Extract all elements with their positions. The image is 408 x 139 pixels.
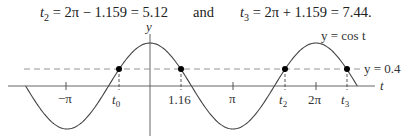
y-axis-label: y [144, 19, 152, 34]
point-t3 [344, 66, 350, 72]
line-label: y = 0.4 [364, 61, 401, 76]
t-axis-label: t [380, 78, 384, 93]
point-t2 [282, 66, 288, 72]
cosine-chart: y t y = cos t y = 0.4 −π t0 1.16 π t2 2π… [0, 0, 408, 139]
tick-label-pi: π [229, 91, 236, 106]
tick-label-2pi: 2π [308, 92, 322, 107]
tick-label-neg-pi: −π [58, 91, 72, 106]
tick-label-t3: t3 [341, 92, 350, 109]
tick-label-t2: t2 [279, 92, 287, 109]
point-1.16 [178, 66, 184, 72]
point-t0 [116, 66, 122, 72]
tick-label-1.16: 1.16 [168, 92, 191, 107]
curve-label: y = cos t [321, 28, 366, 43]
tick-label-t0: t0 [112, 92, 121, 109]
